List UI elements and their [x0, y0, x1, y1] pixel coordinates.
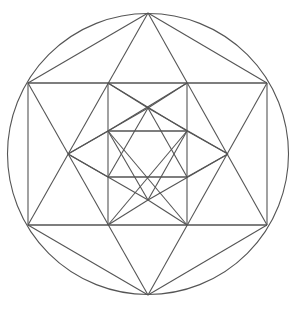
inner-star-down — [108, 131, 148, 200]
middle-star — [68, 154, 108, 177]
middle-star — [108, 200, 148, 225]
outer-star-down — [28, 83, 148, 295]
inner-star-down — [148, 131, 187, 200]
inner-star-up — [148, 108, 187, 177]
outer-hexagon-edge — [28, 225, 148, 295]
outer-hexagon-edge — [28, 13, 148, 83]
outer-circle — [8, 14, 289, 295]
outer-star-up — [28, 13, 148, 225]
middle-star — [148, 83, 187, 108]
geometric-diagram — [0, 0, 290, 309]
middle-star — [68, 131, 108, 154]
middle-star — [187, 154, 228, 177]
outer-hexagon-edge — [148, 225, 267, 295]
outer-star-down — [148, 83, 267, 295]
middle-star — [108, 83, 148, 108]
middle-star — [148, 200, 187, 225]
outer-star-up — [148, 13, 267, 225]
outer-hexagon-edge — [148, 13, 267, 83]
middle-star — [187, 131, 228, 154]
hexagram-construction — [0, 0, 290, 309]
